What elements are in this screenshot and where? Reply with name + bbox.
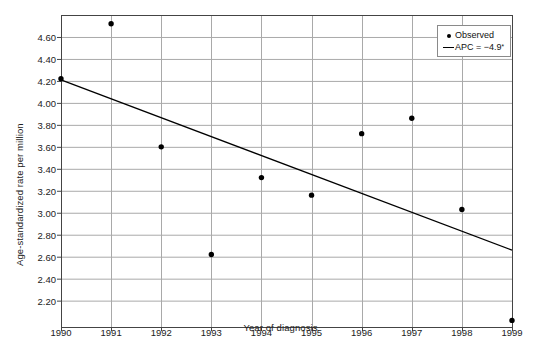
chart-legend: Observed APC = −4.9* (437, 25, 511, 57)
plot-frame (62, 16, 513, 328)
legend-label-observed: Observed (455, 29, 494, 41)
line-marker-icon (442, 41, 455, 53)
trend-line (61, 80, 512, 250)
legend-label-apc: APC = −4.9 (455, 41, 502, 53)
x-axis-title: Year of diagnosis (8, 322, 545, 333)
chart-figure: Age-standardized rate per million 2.202.… (0, 0, 545, 363)
data-points (58, 21, 514, 323)
legend-item-apc: APC = −4.9* (442, 41, 504, 53)
gridlines (61, 15, 513, 327)
legend-item-observed: Observed (442, 29, 504, 41)
legend-footnote-marker: * (502, 41, 505, 53)
point-marker-icon (442, 29, 455, 41)
